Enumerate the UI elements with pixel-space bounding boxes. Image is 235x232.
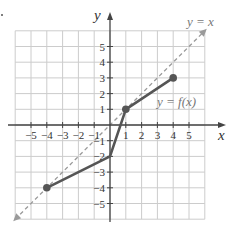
identity-label: y = x	[185, 14, 214, 29]
axes	[8, 12, 226, 222]
function-graph: −5−4−3−2−112345−5−4−3−2−112345 y x y = x…	[0, 0, 235, 232]
endpoint-marker	[169, 74, 177, 82]
y-axis-arrow-icon	[107, 12, 113, 20]
endpoint-marker	[122, 106, 130, 114]
x-axis-label: x	[217, 127, 225, 143]
x-tick-label: 1	[123, 129, 129, 141]
x-tick-label: 4	[170, 129, 176, 141]
y-tick-label: 4	[100, 56, 106, 68]
x-tick-label: 5	[186, 129, 192, 141]
x-tick-label: 2	[139, 129, 145, 141]
stray-dot	[1, 14, 3, 16]
y-tick-label: 5	[100, 41, 106, 53]
x-tick-label: −3	[57, 129, 69, 141]
y-tick-label: −1	[93, 135, 105, 147]
x-tick-label: 3	[155, 129, 161, 141]
y-tick-label: 2	[100, 88, 106, 100]
y-axis-label: y	[92, 7, 101, 23]
x-tick-label: −5	[25, 129, 37, 141]
y-tick-label: −4	[93, 182, 105, 194]
x-tick-label: −4	[41, 129, 53, 141]
y-tick-label: 1	[100, 103, 106, 115]
x-tick-label: −2	[73, 129, 85, 141]
arrow-down-left-icon	[13, 213, 21, 221]
y-tick-label: −5	[93, 198, 105, 210]
y-tick-label: 3	[100, 72, 106, 84]
endpoint-marker	[43, 184, 51, 192]
function-label: y = f(x)	[155, 94, 196, 109]
y-tick-label: −3	[93, 166, 105, 178]
